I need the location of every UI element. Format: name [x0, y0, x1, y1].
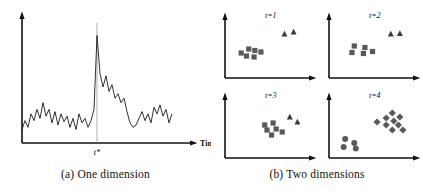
two-dimensions-chart: t=1t=2t=3t=4 — [211, 0, 423, 165]
data-point-diamond — [389, 109, 396, 116]
two-dimensions-t4-y-axis-arrow — [326, 93, 331, 100]
data-point-triangle — [388, 31, 394, 37]
two-dimensions-t3-title: t=3 — [265, 91, 277, 100]
one-dimension-chart: Timet* — [0, 0, 211, 165]
data-point-circle — [353, 146, 359, 152]
panel-a-caption: (a) One dimension — [0, 168, 211, 180]
two-dimensions-t1-x-axis-arrow — [309, 75, 316, 80]
two-dimensions-t4-title: t=4 — [369, 91, 381, 100]
data-point-circle — [351, 140, 357, 146]
data-point-square — [246, 46, 251, 51]
two-dimensions-t3-y-axis-arrow — [222, 93, 227, 100]
panel-two-dimensions: t=1t=2t=3t=4 (b) Two dimensions — [211, 0, 423, 194]
two-dimensions-t1-y-axis-arrow — [222, 13, 227, 20]
two-dimensions-t3-x-axis-arrow — [309, 155, 316, 160]
one-dimension-x-axis-arrow — [190, 140, 197, 145]
event-marker-label: t* — [94, 147, 101, 157]
data-point-square — [352, 43, 357, 48]
data-point-square — [264, 127, 269, 132]
data-point-square — [280, 129, 285, 134]
data-point-square — [239, 50, 244, 55]
data-point-square — [349, 50, 354, 55]
two-dimensions-t2-y-axis-arrow — [326, 13, 331, 20]
data-point-square — [244, 53, 249, 58]
data-point-triangle — [397, 30, 403, 36]
data-point-triangle — [287, 114, 293, 120]
data-point-diamond — [383, 114, 390, 121]
data-point-square — [251, 54, 256, 59]
data-point-circle — [341, 144, 347, 150]
data-point-diamond — [373, 118, 380, 125]
data-point-diamond — [389, 126, 396, 133]
data-point-diamond — [399, 126, 406, 133]
data-point-square — [270, 120, 275, 125]
data-point-diamond — [396, 113, 403, 120]
two-dimensions-t2-title: t=2 — [369, 11, 381, 20]
data-point-diamond — [383, 121, 390, 128]
data-point-square — [262, 122, 267, 127]
two-dimensions-t1-title: t=1 — [265, 11, 277, 20]
data-point-circle — [342, 136, 348, 142]
two-dimensions-t4-x-axis-arrow — [413, 155, 420, 160]
data-point-square — [258, 49, 263, 54]
data-point-triangle — [291, 29, 297, 35]
data-point-square — [362, 45, 367, 50]
data-point-square — [274, 126, 279, 131]
data-point-square — [252, 48, 257, 53]
one-dimension-y-axis-arrow — [19, 12, 24, 19]
x-axis-label: Time — [200, 139, 211, 148]
data-point-triangle — [281, 31, 287, 37]
two-dimensions-t2-x-axis-arrow — [413, 75, 420, 80]
data-point-triangle — [294, 119, 300, 125]
data-point-square — [361, 51, 366, 56]
data-point-square — [269, 132, 274, 137]
data-point-square — [370, 49, 375, 54]
panel-one-dimension: Timet* (a) One dimension — [0, 0, 211, 194]
panel-b-caption: (b) Two dimensions — [211, 168, 423, 180]
figure-container: Timet* (a) One dimension t=1t=2t=3t=4 (b… — [0, 0, 423, 194]
